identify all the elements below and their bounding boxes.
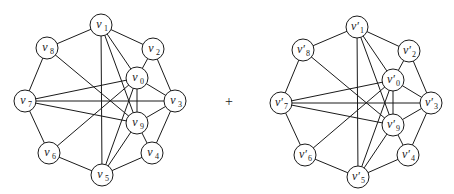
graph-left: v0v1v2v3v4v5v6v7v8v9: [14, 14, 186, 186]
node-v5: v5: [91, 164, 113, 186]
node-v7-prime: v′7: [270, 92, 292, 114]
node-subscript: 3: [178, 100, 182, 109]
node-label: v′: [351, 19, 359, 33]
edge-v9-v7: [25, 101, 137, 123]
node-v9: v9: [126, 112, 148, 134]
node-v3: v3: [164, 90, 186, 112]
edge-v0-v7: [281, 80, 393, 103]
node-v3-prime: v′3: [420, 92, 442, 114]
edge-v1-v5: [357, 27, 358, 177]
node-v2-prime: v′2: [398, 40, 420, 62]
node-v5-prime: v′5: [347, 166, 369, 188]
node-v4: v4: [141, 142, 163, 164]
node-label: v: [96, 17, 102, 31]
node-label: v: [42, 40, 48, 54]
plus-operator: +: [225, 94, 233, 109]
node-subscript: 1: [360, 26, 364, 35]
node-label: v′: [425, 95, 433, 109]
node-v1-prime: v′1: [346, 16, 368, 38]
node-subscript: 7: [284, 102, 288, 111]
node-label: v: [44, 145, 50, 159]
node-subscript: 6: [52, 152, 56, 161]
node-subscript: 9: [396, 124, 400, 133]
node-subscript: 1: [104, 24, 108, 33]
node-label: v: [148, 41, 154, 55]
node-subscript: 4: [411, 154, 415, 163]
node-v9-prime: v′9: [382, 114, 404, 136]
node-v0-prime: v′0: [382, 69, 404, 91]
node-label: v′: [402, 147, 410, 161]
node-label: v: [132, 70, 138, 84]
node-label: v′: [275, 95, 283, 109]
node-subscript: 0: [140, 77, 144, 86]
node-v8-prime: v′8: [292, 39, 314, 61]
node-v8: v8: [36, 37, 58, 59]
node-v6-prime: v′6: [294, 144, 316, 166]
node-label: v′: [352, 169, 360, 183]
node-label: v: [97, 167, 103, 181]
node-v0: v0: [126, 67, 148, 89]
node-label: v′: [403, 43, 411, 57]
node-subscript: 9: [140, 122, 144, 131]
node-subscript: 7: [28, 100, 32, 109]
node-subscript: 8: [306, 49, 310, 58]
node-label: v: [20, 93, 26, 107]
node-label: v: [132, 115, 138, 129]
graph-right-primed: v′0v′1v′2v′3v′4v′5v′6v′7v′8v′9: [270, 16, 442, 188]
node-subscript: 4: [155, 152, 159, 161]
node-label: v′: [299, 147, 307, 161]
node-subscript: 5: [105, 174, 109, 183]
node-subscript: 2: [412, 50, 416, 59]
node-subscript: 6: [308, 154, 312, 163]
node-label: v′: [297, 42, 305, 56]
node-label: v′: [387, 72, 395, 86]
node-label: v: [170, 93, 176, 107]
node-subscript: 0: [396, 79, 400, 88]
edge-v0-v7: [25, 78, 137, 101]
node-v1: v1: [90, 14, 112, 36]
node-v4-prime: v′4: [397, 144, 419, 166]
node-v2: v2: [142, 38, 164, 60]
node-subscript: 2: [156, 48, 160, 57]
node-subscript: 3: [434, 102, 438, 111]
node-label: v: [147, 145, 153, 159]
node-subscript: 8: [50, 47, 54, 56]
node-label: v′: [387, 117, 395, 131]
node-subscript: 5: [361, 176, 365, 185]
node-v6: v6: [38, 142, 60, 164]
node-v7: v7: [14, 90, 36, 112]
edge-v1-v5: [101, 25, 102, 175]
graph-sum-diagram: v0v1v2v3v4v5v6v7v8v9 + v′0v′1v′2v′3v′4v′…: [0, 0, 454, 194]
edge-v9-v7: [281, 103, 393, 125]
